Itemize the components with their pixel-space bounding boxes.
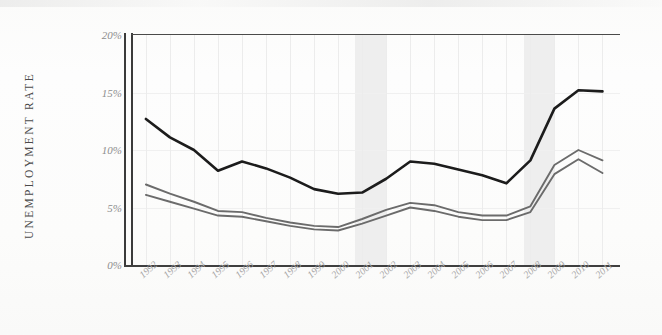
x-axis-tick-1998: 1998	[281, 259, 303, 281]
x-axis-tick-1992: 1992	[137, 259, 159, 281]
x-axis-tick-labels: 1992199319941995199619971998199920002001…	[0, 0, 662, 335]
x-axis-tick-2004: 2004	[425, 259, 447, 281]
x-axis-tick-2011: 2011	[593, 259, 615, 280]
x-axis-tick-2002: 2002	[377, 259, 399, 281]
x-axis-tick-2008: 2008	[521, 259, 543, 281]
x-axis-tick-1999: 1999	[305, 259, 327, 281]
chart-figure: UNEMPLOYMENT RATE 0%5%10%15%20% 19921993…	[0, 0, 662, 335]
x-axis-tick-2005: 2005	[449, 259, 471, 281]
x-axis-tick-1994: 1994	[185, 259, 207, 281]
x-axis-tick-1996: 1996	[233, 259, 255, 281]
x-axis-tick-1993: 1993	[161, 259, 183, 281]
x-axis-tick-2010: 2010	[569, 259, 591, 281]
x-axis-tick-2001: 2001	[353, 259, 375, 281]
x-axis-tick-2003: 2003	[401, 259, 423, 281]
x-axis-tick-2006: 2006	[473, 259, 495, 281]
x-axis-tick-2000: 2000	[329, 259, 351, 281]
x-axis-tick-1997: 1997	[257, 259, 279, 281]
x-axis-tick-1995: 1995	[209, 259, 231, 281]
x-axis-tick-2009: 2009	[545, 259, 567, 281]
x-axis-tick-2007: 2007	[497, 259, 519, 281]
